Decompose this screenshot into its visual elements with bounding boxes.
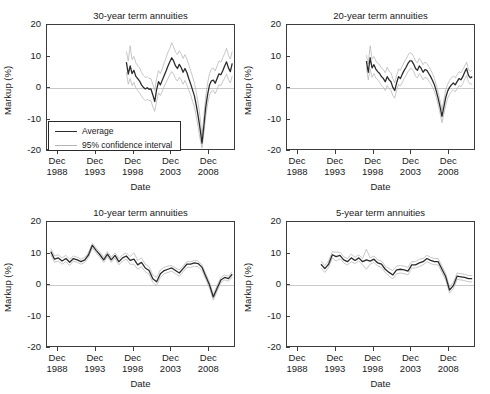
x-tick-mark <box>335 347 336 351</box>
y-tick-label: 0 <box>250 278 281 289</box>
chart-panel-4: 5-year term annuities20100-10-20Markup (… <box>0 0 490 394</box>
x-axis-label: Date <box>286 378 475 389</box>
series-line <box>321 249 472 287</box>
y-tick-label: 10 <box>250 247 281 258</box>
plot-area <box>286 221 475 347</box>
x-tick-mark <box>448 347 449 351</box>
x-tick-mark <box>297 347 298 351</box>
y-tick-label: 20 <box>250 215 281 226</box>
x-tick-label: Dec2008 <box>426 352 470 374</box>
series-lines <box>287 222 475 347</box>
y-axis-label: Markup (%) <box>242 263 253 312</box>
series-line <box>321 255 472 290</box>
x-tick-mark <box>373 347 374 351</box>
x-tick-year: 2008 <box>426 363 470 374</box>
y-tick-mark <box>286 316 290 317</box>
y-tick-mark <box>286 284 290 285</box>
y-tick-mark <box>286 221 290 222</box>
panel-title: 5-year term annuities <box>286 207 475 218</box>
x-tick-mark <box>410 347 411 351</box>
y-tick-label: -10 <box>250 310 281 321</box>
y-tick-mark <box>286 347 290 348</box>
x-tick-month: Dec <box>426 352 470 363</box>
y-tick-mark <box>286 253 290 254</box>
y-tick-label: -20 <box>250 341 281 352</box>
